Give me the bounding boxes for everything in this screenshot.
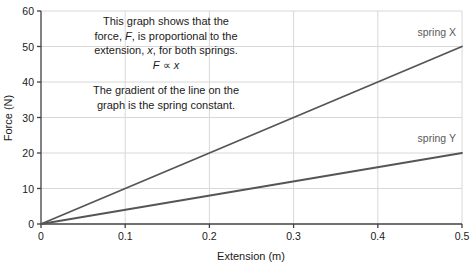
y-tick-label: 0 (28, 218, 34, 230)
annotation-line: force, F, is proportional to the (94, 30, 237, 42)
y-tick-label: 60 (22, 5, 34, 17)
y-tick-label: 30 (22, 112, 34, 124)
annotation-line: The gradient of the line on the (93, 84, 239, 96)
x-axis-title: Extension (m) (217, 250, 285, 262)
y-tick-label: 20 (22, 147, 34, 159)
x-tick-label: 0.3 (286, 230, 301, 242)
x-tick-label: 0 (38, 230, 44, 242)
annotation-line: This graph shows that the (103, 15, 229, 27)
force-extension-chart: 010203040506000.10.20.30.40.5 spring Xsp… (0, 0, 474, 265)
annotation-line: extension, x, for both springs. (94, 44, 238, 56)
x-tick-label: 0.1 (118, 230, 133, 242)
y-tick-label: 10 (22, 183, 34, 195)
series-label: spring X (417, 26, 456, 38)
y-axis-title: Force (N) (2, 95, 14, 141)
x-tick-label: 0.2 (202, 230, 217, 242)
y-tick-label: 40 (22, 76, 34, 88)
x-tick-label: 0.4 (370, 230, 385, 242)
annotation-line: F ∝ x (153, 59, 180, 71)
annotation-line: graph is the spring constant. (97, 99, 235, 111)
chart-canvas: 010203040506000.10.20.30.40.5 spring Xsp… (0, 0, 474, 265)
series-label: spring Y (418, 132, 456, 144)
y-tick-label: 50 (22, 41, 34, 53)
x-tick-label: 0.5 (455, 230, 470, 242)
